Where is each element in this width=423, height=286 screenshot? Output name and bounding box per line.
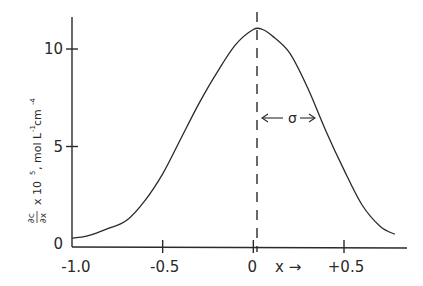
y-tick-label: 5 bbox=[53, 138, 63, 156]
y-tick-label: 0 bbox=[53, 235, 63, 253]
y-ticks: 0510 bbox=[44, 40, 78, 253]
y-label-units-exp2: -4 bbox=[29, 97, 37, 105]
sigma-annotation: σ bbox=[262, 110, 315, 126]
y-label-units: , mol L bbox=[31, 132, 44, 170]
x-tick-label: +0.5 bbox=[328, 258, 364, 276]
data-curve bbox=[72, 28, 395, 238]
x-ticks: -1.0-0.50+0.5 bbox=[61, 240, 364, 276]
x-tick-label: -0.5 bbox=[150, 258, 179, 276]
y-label-fraction-den: ∂x bbox=[38, 212, 48, 223]
y-label-multiplier: x 10 bbox=[31, 181, 44, 205]
y-label-fraction-num: ∂c bbox=[26, 213, 36, 223]
sigma-label: σ bbox=[288, 110, 297, 126]
x-tick-label: 0 bbox=[248, 258, 258, 276]
x-axis-label: x → bbox=[275, 258, 301, 276]
y-tick-label: 10 bbox=[44, 40, 63, 58]
y-label-exponent: 5 bbox=[29, 171, 37, 175]
chart-canvas: 0510 -1.0-0.50+0.5 σ x → ∂c ∂x x 10 5 , … bbox=[0, 0, 423, 286]
y-axis-label: ∂c ∂x x 10 5 , mol L -1 cm -4 bbox=[26, 97, 48, 223]
x-tick-label: -1.0 bbox=[61, 258, 90, 276]
y-label-units-cm: cm bbox=[31, 109, 44, 126]
x-axis bbox=[72, 247, 407, 248]
